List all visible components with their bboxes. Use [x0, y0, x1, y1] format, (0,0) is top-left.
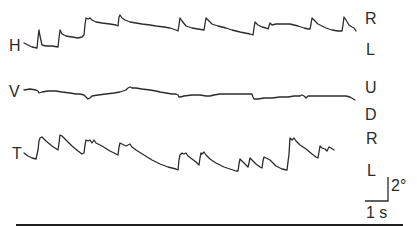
scale-bar — [365, 177, 388, 201]
trace-torsional — [24, 135, 334, 171]
label-h: H — [9, 38, 21, 54]
scale-label-seconds: 1 s — [366, 205, 387, 221]
bottom-divider — [16, 224, 403, 226]
label-v: V — [9, 84, 20, 100]
label-v-up: U — [365, 80, 377, 96]
trace-horizontal — [24, 15, 356, 48]
label-t-left: L — [367, 163, 376, 179]
label-t-right: R — [366, 131, 378, 147]
label-t: T — [12, 146, 22, 162]
eye-movement-figure — [0, 0, 417, 226]
label-h-right: R — [365, 11, 377, 27]
trace-vertical — [24, 87, 355, 100]
scale-label-degrees: 2° — [391, 178, 406, 194]
label-h-left: L — [366, 42, 375, 58]
label-v-down: D — [365, 107, 377, 123]
